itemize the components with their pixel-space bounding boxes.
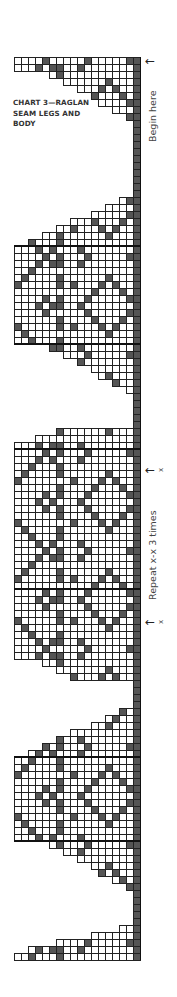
section-divider-line [14,588,140,590]
section-divider-line [14,448,140,450]
begin-here-label: Begin here [147,91,158,142]
repeat-start-arrow-icon: ← [145,464,155,476]
repeat-label: Repeat x-x 3 times [147,510,158,600]
section-divider-line [14,245,140,247]
section-divider-line [14,756,140,758]
repeat-start-x-mark: x [157,468,165,472]
chart-right-border [140,57,141,960]
chart-title-line-2: SEAM LEGS AND [13,109,123,120]
repeat-end-arrow-icon: ← [145,616,155,628]
chart-title: CHART 3—RAGLAN SEAM LEGS AND BODY [13,98,123,130]
repeat-end-x-mark: x [157,620,165,624]
knitting-chart: CHART 3—RAGLAN SEAM LEGS AND BODY ← Begi… [0,0,177,997]
chart-title-line-3: BODY [13,119,123,130]
chart-title-line-1: CHART 3—RAGLAN [13,98,123,109]
section-divider-line [14,840,140,842]
section-divider-line [14,343,140,345]
begin-arrow-icon: ← [145,55,155,67]
